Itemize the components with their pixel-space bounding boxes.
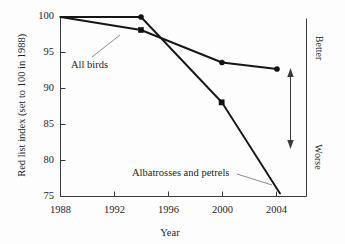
data-point-albatrosses-2000 [219, 100, 224, 105]
y-axis-title: Red list index (set to 100 in 1988) [17, 20, 28, 190]
scale-label-worse: Worse [313, 127, 323, 187]
data-point-albatrosses-1994 [138, 14, 143, 19]
scale-label-better: Better [314, 18, 324, 78]
data-point-all-birds-1994 [138, 27, 143, 32]
series-label-all-birds: All birds [71, 60, 108, 71]
data-point-all-birds-2000 [219, 60, 224, 65]
leader-line-all-birds [92, 35, 120, 57]
x-tick-label-1996: 1996 [146, 205, 191, 216]
scale-arrow-head-down [287, 140, 293, 149]
chart-figure: 100 95 90 85 80 75 1988 1992 1996 2000 2… [0, 0, 345, 244]
series-label-albatrosses: Albatrosses and petrels [132, 168, 229, 179]
leader-line-albatrosses [237, 174, 272, 185]
x-tick-label-2004: 2004 [254, 205, 299, 216]
y-tick-label-75: 75 [18, 191, 54, 202]
data-point-all-birds-2004 [274, 66, 279, 71]
x-axis-title: Year [120, 228, 220, 239]
x-tick-label-1992: 1992 [92, 205, 137, 216]
x-tick-label-2000: 2000 [200, 205, 245, 216]
x-tick-label-1988: 1988 [38, 205, 83, 216]
scale-arrow-head-up [287, 68, 293, 77]
